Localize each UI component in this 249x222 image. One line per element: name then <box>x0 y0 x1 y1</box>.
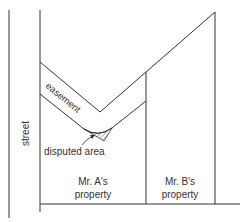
property-a-label-line1: Mr. A's <box>78 176 108 187</box>
disputed-area-label: disputed area <box>44 146 105 157</box>
property-b-label-line2: property <box>162 189 199 200</box>
property-easement-diagram: street easement disputed area Mr. A's pr… <box>0 0 249 222</box>
property-b-label-line1: Mr. B's <box>165 176 195 187</box>
property-a-label-line2: property <box>75 189 112 200</box>
easement-lower-curve <box>40 94 146 133</box>
street-label: street <box>20 121 31 146</box>
easement-label: easement <box>44 80 84 115</box>
